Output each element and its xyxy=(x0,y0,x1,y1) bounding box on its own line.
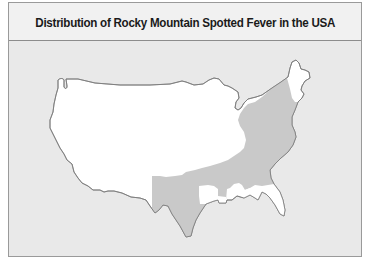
usa-map xyxy=(0,0,371,269)
